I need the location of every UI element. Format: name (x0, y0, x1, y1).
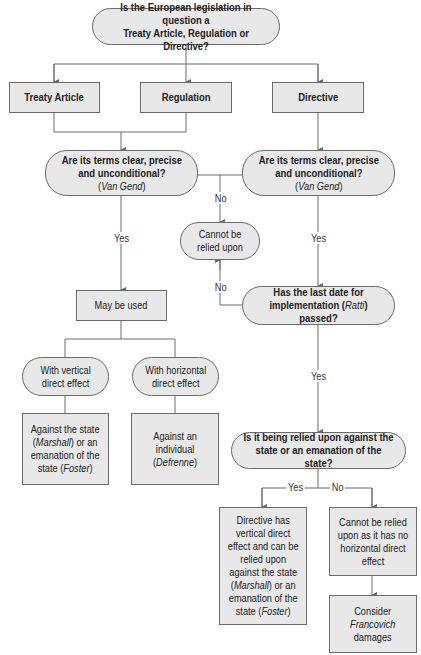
cannot-horizontal-line2: upon as it has no (338, 529, 408, 542)
against-state-line1: Against the state (31, 423, 100, 436)
directive-node: Directive (272, 82, 364, 113)
directive-vertical-effect-node: Directive has vertical direct effect and… (219, 507, 307, 625)
directive-has-line6-post: ) or an (269, 579, 296, 591)
directive-has-case1: Marshall (234, 579, 269, 591)
q-right-line1: Are its terms clear, precise (258, 154, 378, 167)
edge-label-yes-ratti: Yes (309, 370, 328, 382)
against-individual-line1: Against an (153, 430, 197, 443)
against-state-case1: Marshall (36, 436, 71, 448)
against-state-line3: emanation of the (31, 449, 100, 462)
may-be-used-label: May be used (95, 299, 148, 312)
q-left-line2: and unconditional? (61, 167, 181, 180)
last-date-line1: Has the last date for (251, 286, 387, 299)
directive-has-line8-post: ) (287, 605, 290, 617)
start-question-line1: Is the European legislation in question … (102, 1, 269, 27)
start-question-node: Is the European legislation in question … (92, 8, 280, 45)
last-date-question-node: Has the last date for implementation (Ra… (242, 286, 395, 325)
vertical-line2: direct effect (40, 377, 90, 390)
francovich-damages-node: Consider Francovich damages (329, 595, 417, 653)
against-state-line2-post: ) or an (71, 436, 98, 448)
last-date-case: Ratti (345, 299, 364, 311)
treaty-article-node: Treaty Article (9, 82, 100, 113)
last-date-line2-pre: implementation ( (269, 299, 345, 311)
cannot-line2: relied upon (197, 241, 243, 254)
relied-against-line1: Is it being relied upon against the (241, 431, 397, 444)
may-be-used-node: May be used (76, 290, 167, 321)
q-right-case-post: ) (339, 180, 342, 192)
edge-label-no-state: No (330, 481, 345, 493)
relied-against-state-question-node: Is it being relied upon against the stat… (231, 432, 406, 469)
vertical-line1: With vertical (40, 364, 90, 377)
directive-has-line1: Directive has (228, 514, 299, 527)
horizontal-line2: direct effect (145, 377, 206, 390)
edge-label-no-ratti: No (213, 281, 228, 293)
q-left-line1: Are its terms clear, precise (61, 154, 181, 167)
directive-label: Directive (298, 91, 338, 104)
edge-label-yes-left: Yes (112, 232, 131, 244)
q-left-case: Van Gend (101, 180, 142, 192)
francovich-line3: damages (350, 631, 395, 644)
edge-label-yes-state: Yes (286, 481, 305, 493)
edge-label-no-top: No (213, 192, 228, 204)
horizontal-direct-effect-node: With horizontal direct effect (132, 357, 219, 396)
clear-precise-question-right: Are its terms clear, precise and uncondi… (242, 150, 395, 196)
francovich-case: Francovich (350, 618, 395, 631)
cannot-line1: Cannot be (197, 228, 243, 241)
q-left-case-post: ) (142, 180, 145, 192)
against-state-node: Against the state (Marshall) or an emana… (22, 413, 109, 485)
treaty-article-label: Treaty Article (25, 91, 85, 104)
regulation-label: Regulation (162, 91, 211, 104)
against-individual-case: Defrenne (156, 456, 194, 468)
edge-label-yes-right: Yes (309, 232, 328, 244)
directive-has-line4: relied upon (228, 553, 299, 566)
against-state-line4-post: ) (90, 462, 93, 474)
vertical-direct-effect-node: With vertical direct effect (22, 357, 109, 396)
directive-has-line7: emanation of the (228, 592, 299, 605)
against-individual-line2: individual (153, 443, 197, 456)
relied-against-line2: state or an emanation of the state? (241, 444, 397, 470)
cannot-horizontal-line3: horizontal direct (338, 542, 408, 555)
against-state-line4-pre: state ( (38, 462, 64, 474)
no-horizontal-effect-node: Cannot be relied upon as it has no horiz… (329, 507, 417, 576)
q-right-case: Van Gend (298, 180, 339, 192)
directive-has-case2: Foster (261, 605, 287, 617)
clear-precise-question-left: Are its terms clear, precise and uncondi… (45, 150, 198, 196)
directive-has-line3: effect and can be (228, 540, 299, 553)
francovich-line1: Consider (350, 605, 395, 618)
cannot-horizontal-line4: effect (338, 555, 408, 568)
directive-has-line8-pre: state ( (236, 605, 262, 617)
against-state-case2: Foster (64, 462, 90, 474)
q-right-line2: and unconditional? (258, 167, 378, 180)
directive-has-line2: vertical direct (228, 527, 299, 540)
against-individual-node: Against an individual (Defrenne) (131, 413, 219, 485)
horizontal-line1: With horizontal (145, 364, 206, 377)
cannot-horizontal-line1: Cannot be relied (338, 516, 408, 529)
regulation-node: Regulation (140, 82, 232, 113)
start-question-line2: Treaty Article, Regulation or Directive? (102, 27, 269, 53)
cannot-be-relied-upon-node: Cannot be relied upon (180, 222, 260, 260)
directive-has-line5: against the state (228, 566, 299, 579)
